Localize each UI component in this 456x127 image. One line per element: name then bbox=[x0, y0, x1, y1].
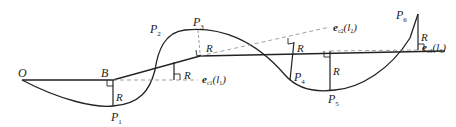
label-p2: P2 bbox=[149, 22, 161, 38]
label-o: O bbox=[18, 66, 27, 80]
right-angle-p3 bbox=[196, 50, 201, 56]
radius-label-p5: R bbox=[332, 65, 340, 77]
label-p5: P5 bbox=[327, 92, 339, 108]
label-b: B bbox=[101, 66, 109, 80]
vector-label-ec3: ec3(l3) bbox=[422, 41, 446, 54]
trajectory-curve bbox=[22, 14, 418, 106]
label-p3: P3 bbox=[192, 15, 204, 31]
right-angle-p4 bbox=[288, 38, 294, 44]
radius-label-p2: R bbox=[183, 69, 191, 81]
vector-label-ec1: ec1(l1) bbox=[202, 73, 226, 86]
right-angle-p2 bbox=[174, 74, 180, 80]
dashed-ec2 bbox=[200, 27, 330, 56]
radius-label-p4: R bbox=[296, 42, 304, 54]
label-p6: P6 bbox=[395, 8, 407, 24]
vector-label-ec2: ec2(l2) bbox=[333, 21, 357, 34]
reference-polyline bbox=[22, 51, 445, 80]
radius-label-p3: R bbox=[205, 42, 213, 54]
label-p4: P4 bbox=[293, 70, 305, 86]
path-diagram: O B P1 P2 P3 P4 P5 P6 R R R R R R ec1(l1… bbox=[0, 0, 456, 127]
right-angle-b bbox=[107, 80, 113, 86]
dashed-ec3 bbox=[330, 50, 418, 51]
radius-label-p1: R bbox=[115, 91, 123, 103]
dashed-p3 bbox=[198, 30, 200, 53]
label-p1: P1 bbox=[110, 110, 122, 126]
